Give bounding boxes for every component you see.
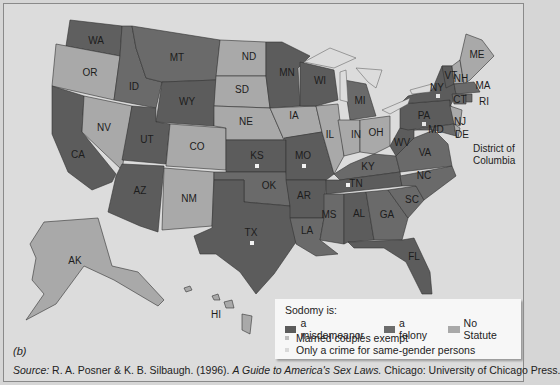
state-label-ar: AR bbox=[297, 191, 311, 201]
lake-michigan bbox=[340, 70, 348, 102]
state-label-ut: UT bbox=[140, 135, 153, 145]
state-label-ia: IA bbox=[289, 111, 298, 121]
legend-note-married-label: Married couples exempt bbox=[296, 332, 408, 344]
state-label-me: ME bbox=[470, 50, 485, 60]
state-label-nj: NJ bbox=[454, 117, 466, 127]
source-citation: Source: R. A. Posner & K. B. Silbaugh. (… bbox=[13, 364, 560, 376]
state-label-sc: SC bbox=[405, 195, 419, 205]
state-label-ca: CA bbox=[71, 150, 85, 160]
state-label-co: CO bbox=[190, 142, 205, 152]
state-label-wa: WA bbox=[88, 36, 104, 46]
state-label-pa: PA bbox=[418, 111, 431, 121]
state-label-tn: TN bbox=[349, 179, 362, 189]
state-label-va: VA bbox=[419, 148, 432, 158]
map-legend: Sodomy is: a misdemeanor a felony No Sta… bbox=[275, 299, 521, 359]
state-label-tx: TX bbox=[245, 228, 258, 238]
swatch-no-statute bbox=[448, 326, 459, 333]
state-label-wi: WI bbox=[314, 76, 326, 86]
state-label-ak: AK bbox=[68, 256, 81, 266]
state-label-wy: WY bbox=[179, 97, 195, 107]
marker-same-gender-tn bbox=[346, 183, 350, 187]
legend-label-no-statute: No Statute bbox=[464, 317, 511, 341]
state-label-id: ID bbox=[129, 82, 139, 92]
figure-frame: WA OR CA NV ID MT WY UT CO AZ NM ND SD N… bbox=[3, 3, 524, 382]
state-label-de: DE bbox=[455, 130, 469, 140]
state-label-ks: KS bbox=[250, 151, 263, 161]
panel-label: (b) bbox=[13, 345, 26, 357]
state-label-al: AL bbox=[353, 209, 365, 219]
state-label-ri: RI bbox=[479, 97, 489, 107]
source-title: A Guide to America's Sex Laws. bbox=[232, 364, 381, 376]
marker-same-gender-tx bbox=[250, 241, 254, 245]
dc-label-line1: District of bbox=[473, 144, 515, 154]
state-label-nc: NC bbox=[417, 171, 431, 181]
state-label-ny: NY bbox=[430, 83, 444, 93]
state-label-ct: CT bbox=[453, 95, 466, 105]
marker-same-gender-mo bbox=[302, 164, 306, 168]
state-label-la: LA bbox=[301, 226, 313, 236]
state-label-oh: OH bbox=[369, 128, 384, 138]
state-label-nd: ND bbox=[242, 52, 256, 62]
state-label-mt: MT bbox=[170, 53, 184, 63]
state-label-hi: HI bbox=[211, 310, 221, 320]
state-label-wv: WV bbox=[394, 138, 410, 148]
source-publisher: Chicago: University of Chicago Press. bbox=[381, 364, 560, 376]
state-label-mn: MN bbox=[279, 68, 295, 78]
state-label-mi: MI bbox=[354, 96, 365, 106]
marker-same-gender-ks bbox=[255, 164, 259, 168]
marker-icon-married bbox=[285, 336, 289, 340]
state-label-ne: NE bbox=[239, 117, 253, 127]
source-prefix: Source: bbox=[13, 364, 49, 376]
legend-note-same-gender-label: Only a crime for same-gender persons bbox=[296, 344, 475, 356]
marker-icon-same-gender bbox=[285, 348, 289, 352]
state-label-il: IL bbox=[326, 130, 334, 140]
state-label-ky: KY bbox=[361, 162, 374, 172]
marker-married-exempt-pa bbox=[422, 122, 426, 126]
source-authors: R. A. Posner & K. B. Silbaugh. (1996). bbox=[49, 364, 232, 376]
state-label-sd: SD bbox=[235, 85, 249, 95]
state-label-in: IN bbox=[351, 130, 361, 140]
state-ri bbox=[466, 94, 472, 102]
state-label-az: AZ bbox=[134, 186, 147, 196]
state-ak bbox=[26, 218, 164, 320]
state-label-nh: NH bbox=[454, 74, 468, 84]
dc-label-line2: Columbia bbox=[473, 156, 515, 166]
legend-title: Sodomy is: bbox=[285, 304, 337, 316]
legend-note-married: Married couples exempt bbox=[285, 332, 408, 344]
state-label-mo: MO bbox=[295, 151, 311, 161]
state-fl bbox=[348, 238, 432, 294]
state-az bbox=[108, 164, 164, 232]
state-label-nm: NM bbox=[181, 194, 197, 204]
state-label-nv: NV bbox=[97, 123, 111, 133]
state-label-ma: MA bbox=[476, 81, 491, 91]
state-label-ga: GA bbox=[380, 210, 394, 220]
marker-married-exempt-ny bbox=[436, 94, 440, 98]
state-label-ms: MS bbox=[322, 210, 337, 220]
state-label-fl: FL bbox=[408, 252, 420, 262]
state-label-ok: OK bbox=[262, 181, 276, 191]
legend-note-same-gender: Only a crime for same-gender persons bbox=[285, 344, 475, 356]
state-label-md: MD bbox=[428, 125, 444, 135]
state-label-or: OR bbox=[83, 68, 98, 78]
